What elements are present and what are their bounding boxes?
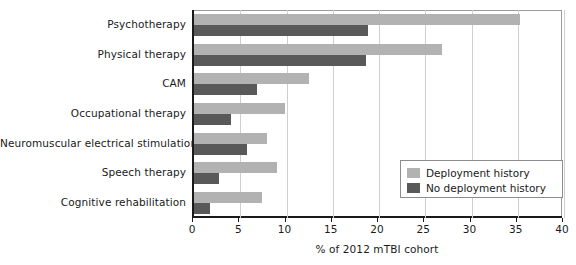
bar bbox=[194, 203, 210, 214]
bar bbox=[194, 192, 262, 203]
y-axis-label: Speech therapy bbox=[0, 166, 186, 178]
legend-swatch-icon-light bbox=[407, 168, 420, 178]
x-axis-tick-label: 15 bbox=[311, 223, 351, 235]
y-axis-label: Physical therapy bbox=[0, 48, 186, 60]
x-axis-tick-label: 10 bbox=[265, 223, 305, 235]
bar-group bbox=[194, 14, 562, 36]
x-axis-tick-mark bbox=[192, 218, 193, 222]
bar bbox=[194, 44, 442, 55]
bar-group bbox=[194, 103, 562, 125]
x-axis-tick-label: 30 bbox=[450, 223, 490, 235]
bar bbox=[194, 144, 247, 155]
x-axis-tick-mark bbox=[470, 218, 471, 222]
x-axis-tick-mark bbox=[331, 218, 332, 222]
bar bbox=[194, 162, 277, 173]
gridline bbox=[564, 10, 565, 218]
chart-legend: Deployment history No deployment history bbox=[400, 160, 563, 198]
y-axis-label: Psychotherapy bbox=[0, 18, 186, 30]
legend-label: Deployment history bbox=[426, 167, 530, 179]
x-axis-tick-mark bbox=[377, 218, 378, 222]
x-axis-tick-label: 0 bbox=[172, 223, 212, 235]
bar bbox=[194, 73, 309, 84]
x-axis-tick-mark bbox=[238, 218, 239, 222]
x-axis-tick-label: 35 bbox=[496, 223, 536, 235]
bar bbox=[194, 103, 285, 114]
bar bbox=[194, 133, 267, 144]
y-axis-label: Neuromuscular electrical stimulation bbox=[0, 137, 186, 149]
bar bbox=[194, 114, 231, 125]
legend-item-deployment-history: Deployment history bbox=[407, 165, 556, 180]
x-axis-tick-mark bbox=[516, 218, 517, 222]
bar-group bbox=[194, 73, 562, 95]
bar bbox=[194, 25, 368, 36]
bar bbox=[194, 84, 257, 95]
y-axis-label: CAM bbox=[0, 77, 186, 89]
bar bbox=[194, 14, 520, 25]
x-axis-tick-mark bbox=[423, 218, 424, 222]
legend-swatch-icon-dark bbox=[407, 183, 420, 193]
y-axis-label: Occupational therapy bbox=[0, 107, 186, 119]
x-axis-tick-mark bbox=[562, 218, 563, 222]
bar-group bbox=[194, 44, 562, 66]
x-axis-tick-mark bbox=[285, 218, 286, 222]
x-axis-tick-label: 25 bbox=[403, 223, 443, 235]
x-axis-line bbox=[194, 216, 562, 218]
x-axis-tick-label: 5 bbox=[218, 223, 258, 235]
x-axis-tick-label: 40 bbox=[542, 223, 576, 235]
plot-border-top bbox=[194, 10, 562, 11]
bar-group bbox=[194, 133, 562, 155]
legend-label: No deployment history bbox=[426, 182, 546, 194]
bar-chart: PsychotherapyPhysical therapyCAMOccupati… bbox=[0, 0, 576, 265]
bar bbox=[194, 55, 366, 66]
x-axis-tick-label: 20 bbox=[357, 223, 397, 235]
x-axis-title: % of 2012 mTBI cohort bbox=[192, 243, 562, 255]
y-axis-label: Cognitive rehabilitation bbox=[0, 196, 186, 208]
bar bbox=[194, 173, 219, 184]
legend-item-no-deployment-history: No deployment history bbox=[407, 180, 556, 195]
